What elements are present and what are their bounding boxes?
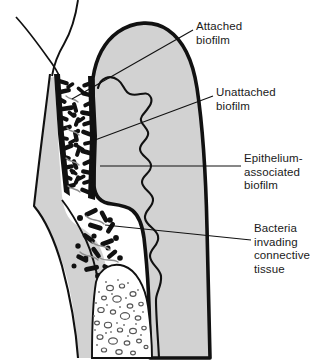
- epithelium-label-line1: Epithelium-: [244, 152, 303, 166]
- bacteria-label-line1: Bacteria: [254, 222, 310, 236]
- unattached-biofilm-label-line1: Unattached: [216, 86, 276, 100]
- unattached-biofilm-label-line2: biofilm: [216, 100, 276, 114]
- bacteria-label-line3: connective: [254, 249, 310, 263]
- unattached-biofilm-label: Unattached biofilm: [216, 86, 276, 113]
- epithelium-label-line2: associated: [244, 166, 303, 180]
- bacteria-invading-connective-tissue-label: Bacteria invading connective tissue: [254, 222, 310, 276]
- epithelium-associated-biofilm-label: Epithelium- associated biofilm: [244, 152, 303, 193]
- attached-biofilm-label: Attached biofilm: [196, 20, 242, 47]
- attached-biofilm-label-line2: biofilm: [196, 34, 242, 48]
- figure-canvas: Attached biofilm Unattached biofilm Epit…: [0, 0, 328, 360]
- bacteria-label-line2: invading: [254, 236, 310, 250]
- attached-biofilm-label-line1: Attached: [196, 20, 242, 34]
- alveolar-bone-trabeculae: [92, 265, 152, 358]
- epithelium-label-line3: biofilm: [244, 179, 303, 193]
- tooth-surface-outline: [52, 0, 78, 76]
- bacteria-label-line4: tissue: [254, 263, 310, 277]
